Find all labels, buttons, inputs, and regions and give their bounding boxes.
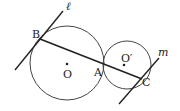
center-o-dot	[66, 63, 69, 66]
label-b: B	[32, 28, 40, 41]
label-o-prime: O′	[121, 52, 133, 65]
label-m: m	[158, 46, 168, 59]
label-a: A	[93, 66, 103, 79]
label-l: ℓ	[66, 0, 71, 13]
label-c: C	[142, 76, 150, 89]
label-o: O	[63, 68, 72, 81]
geometry-diagram: ℓ m B A C O O′	[0, 0, 180, 111]
